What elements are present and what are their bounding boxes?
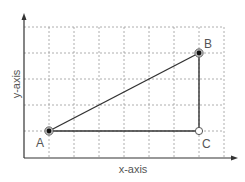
x-axis-label: x-axis bbox=[119, 163, 148, 175]
y-axis-arrow-icon bbox=[22, 13, 27, 20]
point-b-label: B bbox=[204, 37, 212, 51]
point-a-label: A bbox=[36, 136, 44, 150]
point-b bbox=[195, 49, 203, 57]
y-axis-label: y-axis bbox=[10, 69, 22, 98]
right-triangle-diagram: A B C x-axis y-axis bbox=[0, 0, 245, 182]
point-a bbox=[45, 127, 53, 135]
x-axis-arrow-icon bbox=[231, 156, 238, 161]
point-c bbox=[195, 127, 202, 134]
point-c-label: C bbox=[202, 137, 211, 151]
